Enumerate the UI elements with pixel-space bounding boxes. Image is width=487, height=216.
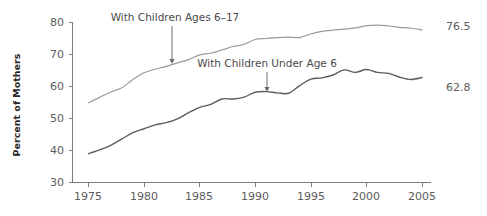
series-line-children-under-6 xyxy=(89,70,423,154)
x-tick-label: 1975 xyxy=(74,190,102,203)
annotation-label: With Children Under Age 6 xyxy=(197,57,337,69)
annotation-children-under-6: With Children Under Age 6 xyxy=(197,57,337,92)
end-value-label-children-under-6: 62.8 xyxy=(446,81,471,94)
x-tick-label: 1995 xyxy=(297,190,325,203)
end-value-label-children-6-17: 76.5 xyxy=(446,20,471,33)
annotation-arrow-head-icon xyxy=(169,59,174,64)
y-tick-label: 60 xyxy=(50,80,64,93)
x-tick-label: 1980 xyxy=(130,190,158,203)
x-tick-label: 2005 xyxy=(408,190,436,203)
y-tick-label: 80 xyxy=(50,16,64,29)
y-tick-label: 40 xyxy=(50,144,64,157)
chart-container: Percent of Mothers 30 40 50 60 70 80 xyxy=(0,0,487,216)
line-chart: Percent of Mothers 30 40 50 60 70 80 xyxy=(0,0,487,216)
x-tick-label: 1985 xyxy=(185,190,213,203)
y-axis-ticks: 30 40 50 60 70 80 xyxy=(50,16,73,189)
y-tick-label: 70 xyxy=(50,48,64,61)
y-tick-label: 50 xyxy=(50,112,64,125)
annotation-label: With Children Ages 6–17 xyxy=(111,11,240,23)
y-tick-label: 30 xyxy=(50,176,64,189)
x-axis-ticks: 1975 1980 1985 1990 1995 2000 2005 xyxy=(74,183,436,204)
y-axis-title: Percent of Mothers xyxy=(11,53,22,156)
x-tick-label: 1990 xyxy=(241,190,269,203)
x-tick-label: 2000 xyxy=(352,190,380,203)
